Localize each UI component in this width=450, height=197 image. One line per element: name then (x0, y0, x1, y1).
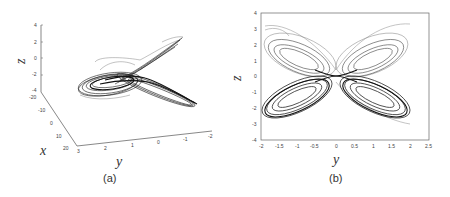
svg-text:-4: -4 (32, 87, 37, 93)
svg-text:-4: -4 (252, 137, 257, 143)
panel-a-3d-attractor: 4 2 0 -2 -4 z -20 -10 0 10 20 x 3 2 1 0 (0, 0, 225, 197)
butterfly-trajectory (256, 24, 416, 127)
svg-text:2: 2 (409, 143, 412, 149)
y-axis-ticks-left: 4 3 2 1 0 -1 -2 -3 -4 (252, 10, 257, 143)
y-axis-label: y (114, 154, 123, 169)
svg-text:-1: -1 (295, 143, 300, 149)
svg-text:1: 1 (131, 142, 134, 148)
attractor-3d-trajectory (77, 37, 197, 112)
svg-text:-1.5: -1.5 (275, 143, 284, 149)
svg-text:-3: -3 (252, 121, 257, 127)
svg-text:-1: -1 (252, 89, 257, 95)
svg-text:-2: -2 (252, 105, 257, 111)
svg-text:2: 2 (34, 39, 37, 45)
panel-b-yz-projection: 4 3 2 1 0 -1 -2 -3 -4 -2 -1.5 -1 -0.5 0 … (225, 0, 450, 197)
svg-text:-20: -20 (29, 94, 36, 100)
svg-text:-10: -10 (38, 107, 45, 113)
caption-b: (b) (329, 172, 342, 184)
caption-a: (a) (103, 172, 116, 184)
svg-text:3: 3 (77, 148, 80, 154)
x-axis-label-y: y (331, 152, 340, 167)
axes-box (261, 13, 429, 140)
svg-text:-2: -2 (32, 71, 37, 77)
x-ticks: -20 -10 0 10 20 (29, 94, 69, 151)
svg-text:0: 0 (50, 120, 53, 126)
svg-text:0: 0 (157, 139, 160, 145)
svg-text:0.5: 0.5 (351, 143, 358, 149)
svg-text:1: 1 (254, 58, 257, 64)
plot-3d: 4 2 0 -2 -4 z -20 -10 0 10 20 x 3 2 1 0 (0, 0, 225, 197)
svg-text:-2: -2 (259, 143, 264, 149)
svg-text:1: 1 (372, 143, 375, 149)
svg-text:-0.5: -0.5 (310, 143, 319, 149)
svg-text:1.5: 1.5 (388, 143, 395, 149)
svg-text:2.5: 2.5 (425, 143, 432, 149)
svg-text:0: 0 (335, 143, 338, 149)
svg-text:4: 4 (254, 10, 257, 16)
svg-text:20: 20 (63, 145, 69, 151)
svg-text:3: 3 (254, 26, 257, 32)
svg-text:0: 0 (34, 55, 37, 61)
svg-text:2: 2 (254, 42, 257, 48)
x-axis-label: x (39, 143, 47, 158)
x-axis-ticks-bottom: -2 -1.5 -1 -0.5 0 0.5 1 1.5 2 2.5 (259, 143, 432, 149)
svg-text:0: 0 (254, 73, 257, 79)
svg-text:4: 4 (34, 22, 37, 28)
svg-text:2: 2 (104, 145, 107, 151)
y-axis-label-z: z (229, 75, 244, 82)
svg-text:10: 10 (56, 133, 62, 139)
z-axis-label: z (13, 58, 28, 65)
svg-text:-2: -2 (208, 133, 213, 139)
plot-2d: 4 3 2 1 0 -1 -2 -3 -4 -2 -1.5 -1 -0.5 0 … (225, 0, 450, 197)
svg-text:-1: -1 (183, 136, 188, 142)
